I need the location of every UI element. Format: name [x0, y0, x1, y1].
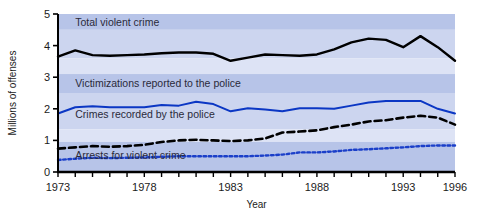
x-axis-title: Year: [246, 199, 267, 210]
x-tick-label-1978: 1978: [132, 181, 156, 193]
x-tick-label-1983: 1983: [218, 181, 242, 193]
crime-trends-line-chart: 012345197319781983198819931996 Total vio…: [0, 0, 477, 218]
x-tick-label-1993: 1993: [391, 181, 415, 193]
y-tick-label-4: 4: [44, 40, 50, 52]
series-annotation-3: Arrests for violent crime: [75, 149, 185, 161]
series-annotation-1: Victimizations reported to the police: [75, 77, 241, 89]
y-tick-label-2: 2: [44, 103, 50, 115]
y-axis-title: Millions of offenses: [7, 51, 18, 136]
x-tick-label-1973: 1973: [46, 181, 70, 193]
chart-figure: 012345197319781983198819931996 Total vio…: [0, 0, 477, 218]
band-2: [58, 58, 455, 74]
series-annotation-0: Total violent crime: [75, 16, 159, 28]
y-tick-label-0: 0: [44, 166, 50, 178]
x-tick-label-1988: 1988: [305, 181, 329, 193]
series-annotation-2: Crimes recorded by the police: [75, 108, 215, 120]
y-tick-label-1: 1: [44, 134, 50, 146]
x-tick-label-1996: 1996: [443, 181, 467, 193]
y-tick-label-5: 5: [44, 8, 50, 20]
y-tick-label-3: 3: [44, 71, 50, 83]
